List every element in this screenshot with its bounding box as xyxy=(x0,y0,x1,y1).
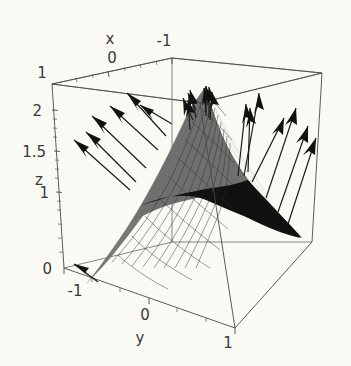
z-tick-1: 1 xyxy=(39,184,49,202)
y-axis-label: y xyxy=(136,329,145,347)
x-axis-label: x xyxy=(106,30,115,48)
y-tick-minus1: -1 xyxy=(68,282,83,300)
z-tick-0: 0 xyxy=(42,260,52,278)
y-tick-1: 1 xyxy=(223,334,233,352)
corner-tick-top-left: 1 xyxy=(37,64,47,82)
x-tick-minus1: -1 xyxy=(157,32,172,50)
3d-plot-area: x 0 -1 1 2 1.5 z 1 0 -1 0 y 1 xyxy=(0,0,351,366)
y-tick-0: 0 xyxy=(140,306,150,324)
x-tick-0: 0 xyxy=(107,49,117,67)
z-tick-1point5: 1.5 xyxy=(22,143,46,161)
z-tick-2: 2 xyxy=(32,102,42,120)
figure-root: x 0 -1 1 2 1.5 z 1 0 -1 0 y 1 xyxy=(0,0,351,366)
